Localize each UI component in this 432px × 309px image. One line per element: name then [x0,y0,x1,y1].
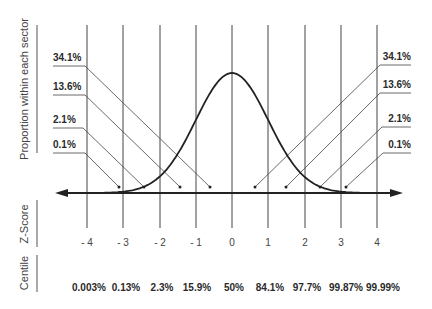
svg-text:50%: 50% [224,282,244,293]
svg-text:0.003%: 0.003% [72,282,106,293]
svg-text:- 1: - 1 [190,237,202,248]
svg-text:1: 1 [265,237,271,248]
left-arrow-icon [55,189,68,197]
svg-text:- 3: - 3 [117,237,129,248]
centile-row-label: Centile [18,256,30,290]
svg-text:15.9%: 15.9% [183,282,211,293]
svg-text:84.1%: 84.1% [256,282,284,293]
svg-text:0.13%: 0.13% [112,282,140,293]
svg-text:97.7%: 97.7% [293,282,321,293]
right-label-13: 13.6% [383,79,411,90]
right-arrow-icon [390,189,403,197]
left-label-2: 2.1% [53,114,76,125]
svg-text:- 2: - 2 [154,237,166,248]
normal-distribution-chart: Proportion within each sector Z-Score Ce… [0,0,432,309]
zscore-ticks: - 4 - 3 - 2 - 1 0 1 2 3 4 [81,237,380,248]
svg-text:99.99%: 99.99% [366,282,400,293]
vertical-gridlines [87,25,377,228]
svg-text:2: 2 [302,237,308,248]
right-label-0: 0.1% [388,139,411,150]
right-label-34: 34.1% [383,51,411,62]
centile-values: 0.003% 0.13% 2.3% 15.9% 50% 84.1% 97.7% … [72,282,400,293]
svg-text:4: 4 [374,237,380,248]
svg-text:99.87%: 99.87% [329,282,363,293]
right-label-2: 2.1% [388,113,411,124]
svg-text:2.3%: 2.3% [151,282,174,293]
zscore-row-label: Z-Score [18,204,30,243]
y-axis-label: Proportion within each sector [18,18,30,160]
left-label-13: 13.6% [53,81,81,92]
svg-text:3: 3 [338,237,344,248]
svg-text:- 4: - 4 [81,237,93,248]
left-label-34: 34.1% [53,52,81,63]
left-label-0: 0.1% [53,139,76,150]
svg-text:0: 0 [229,237,235,248]
